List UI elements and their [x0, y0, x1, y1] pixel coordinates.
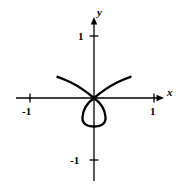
plot-canvas: [0, 0, 179, 185]
curve-right-branch: [94, 77, 131, 98]
y-tick-label-pos1: 1: [78, 31, 84, 42]
y-tick-label-neg1: -1: [70, 155, 79, 166]
x-tick-label-pos1: 1: [150, 106, 156, 117]
x-axis-arrow-icon: [157, 95, 165, 101]
y-axis-arrow-icon: [91, 17, 97, 25]
y-axis-label: y: [97, 7, 102, 18]
curve-left-branch: [58, 77, 95, 98]
x-axis-label: x: [167, 87, 173, 98]
x-tick-label-neg1: -1: [22, 106, 31, 117]
plot-figure: x y -1 1 1 -1: [0, 0, 179, 185]
